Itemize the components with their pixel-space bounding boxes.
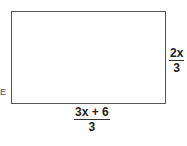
height-label: 2x 3 <box>169 47 184 74</box>
height-numerator: 2x <box>169 47 184 61</box>
cropped-text-fragment: E <box>0 88 6 97</box>
width-denominator: 3 <box>89 120 96 133</box>
height-denominator: 3 <box>173 61 180 74</box>
width-label: 3x + 6 3 <box>74 106 110 133</box>
width-numerator: 3x + 6 <box>74 106 110 120</box>
rectangle-shape <box>11 11 166 104</box>
